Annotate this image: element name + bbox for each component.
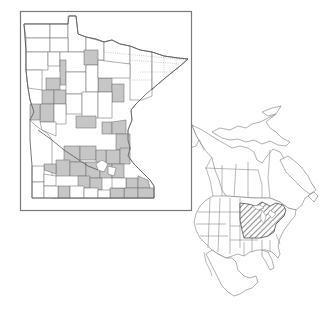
county [44,186,58,198]
region-florida [262,250,274,270]
county [86,65,98,92]
county-shaded [60,60,66,85]
county-shaded [76,116,96,128]
county [26,38,50,52]
county [26,70,42,90]
county [50,24,68,38]
county [50,38,68,52]
county [24,24,50,38]
county [98,92,112,118]
county [26,52,48,70]
county [112,178,126,188]
county-shaded [112,120,126,134]
county [32,182,44,198]
county-shaded [40,104,54,122]
county-shaded [102,122,112,134]
county-shaded [58,186,70,198]
county-shaded [64,146,80,162]
county-shaded [84,50,98,65]
distribution-map [0,0,325,317]
county-shaded [80,146,96,160]
county [66,94,82,114]
county-shaded [56,160,70,176]
county-shaded [106,150,120,164]
county-shaded [42,90,54,104]
county-shaded [126,178,138,188]
county [82,92,98,118]
region-greenland-edge [262,106,281,116]
county [44,174,56,186]
county [84,188,98,198]
county [70,186,84,198]
county-shaded [110,188,124,198]
county-shaded [54,90,66,104]
county-shaded [112,84,124,102]
county [66,72,86,94]
region-mexico [206,250,258,296]
region-arctic-islands [212,114,290,146]
county-shaded [46,78,60,90]
county [48,52,60,66]
county [54,104,66,124]
county-shaded [70,162,86,176]
county [98,190,110,198]
county-shaded [138,188,154,198]
county-shaded [98,78,112,92]
county [32,166,44,182]
county-shaded [124,188,138,198]
